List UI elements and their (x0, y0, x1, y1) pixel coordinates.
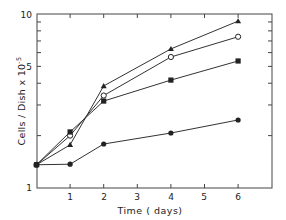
plot-frame (37, 14, 272, 188)
data-point-marker (101, 141, 106, 146)
x-tick-label-4: 4 (168, 192, 174, 202)
data-point-marker (236, 58, 241, 63)
data-point-marker (101, 98, 106, 103)
series-filled-triangle (34, 18, 242, 167)
data-point-marker (67, 142, 73, 147)
data-point-marker (101, 93, 106, 98)
x-tick-label-6: 6 (235, 192, 241, 202)
data-point-marker (168, 130, 173, 135)
data-point-marker (34, 162, 39, 167)
y-tick-label-5: 5 (26, 62, 32, 72)
data-series (34, 18, 242, 167)
data-point-marker (235, 18, 241, 23)
x-tick-label-1: 1 (67, 192, 73, 202)
axis-ticks (37, 14, 272, 188)
data-point-marker (68, 129, 73, 134)
data-point-marker (68, 162, 73, 167)
y-tick-label-1: 1 (26, 183, 32, 193)
y-tick-label-10: 10 (21, 10, 33, 20)
series-filled-circle (34, 117, 241, 167)
data-point-marker (101, 83, 107, 88)
svg-text:Cells / Dish x 10-5: Cells / Dish x 10-5 (15, 57, 27, 146)
growth-chart: 10 5 1 1 2 3 4 5 6 Time ( days) Cells / … (0, 0, 286, 220)
data-point-marker (236, 117, 241, 122)
x-tick-label-2: 2 (101, 192, 107, 202)
series-filled-square (34, 58, 241, 167)
x-axis-title: Time ( days) (116, 205, 182, 216)
data-point-marker (168, 54, 173, 59)
y-axis-title: Cells / Dish x 10-5 (15, 57, 27, 146)
x-tick-label-5: 5 (201, 192, 207, 202)
data-point-marker (168, 77, 173, 82)
data-point-marker (236, 34, 241, 39)
x-tick-label-3: 3 (134, 192, 140, 202)
